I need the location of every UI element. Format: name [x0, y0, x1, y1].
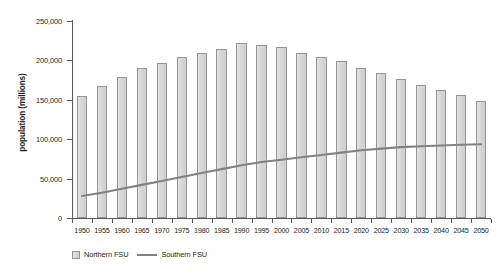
x-tick-mark [272, 219, 273, 223]
y-tick-label: 250,000 [36, 17, 62, 26]
x-axis-line [72, 218, 491, 219]
x-tick-mark [152, 219, 153, 223]
line-swatch-icon [137, 254, 157, 256]
y-tick-label: 100,000 [36, 135, 62, 144]
x-tick-mark [112, 219, 113, 223]
x-tick-mark [391, 219, 392, 223]
chart-figure: population (millions) 050,000100,000150,… [0, 0, 502, 273]
y-tick-label: 0 [58, 214, 62, 223]
line-series-southern-fsu [72, 21, 491, 218]
x-tick-mark [92, 219, 93, 223]
y-tick-label: 200,000 [36, 56, 62, 65]
x-tick-mark [252, 219, 253, 223]
x-tick-mark [232, 219, 233, 223]
chart-legend: Northern FSU Southern FSU [72, 250, 207, 259]
x-tick-mark [192, 219, 193, 223]
x-tick-mark [371, 219, 372, 223]
x-tick-mark [291, 219, 292, 223]
y-tick-label: 50,000 [40, 175, 62, 184]
y-axis-title: population (millions) [18, 23, 27, 203]
x-tick-mark [471, 219, 472, 223]
southern-fsu-polyline [82, 144, 481, 196]
x-tick-mark [311, 219, 312, 223]
x-tick-mark [451, 219, 452, 223]
x-tick-mark [132, 219, 133, 223]
bar-swatch-icon [72, 251, 80, 259]
x-tick-label: 2050 [466, 226, 496, 235]
legend-item-northern-fsu[interactable]: Northern FSU [72, 250, 128, 259]
legend-label-southern-fsu: Southern FSU [161, 250, 207, 259]
x-tick-mark [72, 219, 73, 223]
x-tick-mark [172, 219, 173, 223]
y-tick-label: 150,000 [36, 96, 62, 105]
x-tick-mark [491, 219, 492, 223]
legend-label-northern-fsu: Northern FSU [84, 250, 128, 259]
x-tick-mark [351, 219, 352, 223]
x-tick-mark [331, 219, 332, 223]
x-tick-mark [212, 219, 213, 223]
x-tick-mark [431, 219, 432, 223]
legend-item-southern-fsu[interactable]: Southern FSU [137, 250, 207, 259]
x-tick-mark [411, 219, 412, 223]
